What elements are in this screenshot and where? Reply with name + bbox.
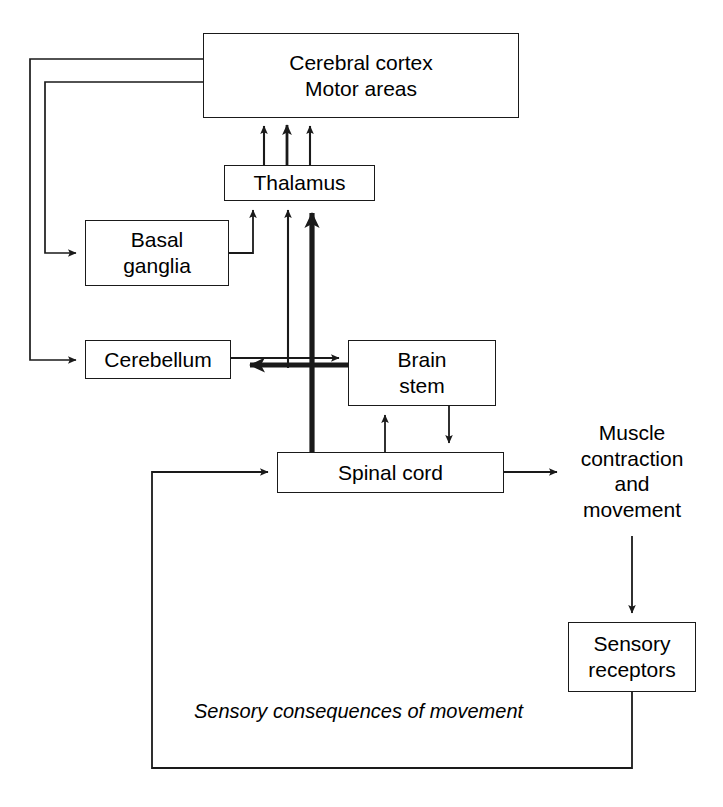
node-spinal-cord[interactable]: Spinal cord	[277, 452, 504, 493]
edge-cortex-to-cerebellum	[30, 59, 203, 360]
node-basal-ganglia[interactable]: Basal ganglia	[85, 220, 229, 286]
edge-basal-ganglia-to-thalamus	[229, 210, 253, 253]
node-cerebellum[interactable]: Cerebellum	[85, 340, 231, 379]
label-sensory-consequences-of-movement: Sensory consequences of movement	[190, 700, 527, 723]
node-sensory-receptors[interactable]: Sensory receptors	[568, 622, 696, 692]
node-cerebral-cortex[interactable]: Cerebral cortex Motor areas	[203, 33, 519, 118]
node-thalamus[interactable]: Thalamus	[224, 165, 375, 201]
edge-sensory-receptors-to-spinal-cord	[152, 472, 632, 768]
node-brain-stem[interactable]: Brain stem	[348, 340, 496, 406]
label-muscle-contraction-and-movement: Muscle contraction and movement	[567, 420, 697, 522]
motor-system-diagram: Cerebral cortex Motor areas Thalamus Bas…	[0, 0, 723, 807]
